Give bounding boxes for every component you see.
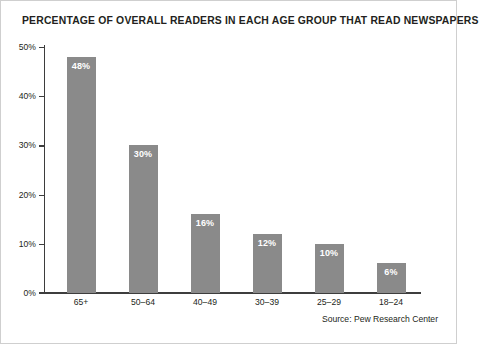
bar-value-label: 30% [129, 149, 158, 159]
x-axis-category-labels: 65+50–6440–4930–3925–2918–24 [45, 297, 417, 313]
x-axis-category-label: 30–39 [237, 297, 297, 307]
x-axis-category-label: 50–64 [113, 297, 173, 307]
x-axis-category-label: 40–49 [175, 297, 235, 307]
y-axis-tick-label: 10% [6, 239, 36, 249]
y-axis-tick-mark [39, 47, 45, 48]
y-axis-tick-mark [39, 96, 45, 97]
y-axis-tick-mark [39, 195, 45, 196]
y-axis-tick-label: 30% [6, 140, 36, 150]
bar: 12% [253, 234, 282, 293]
y-axis-tick-mark [39, 293, 45, 294]
bar-value-label: 10% [315, 248, 344, 258]
bar-value-label: 6% [377, 267, 406, 277]
y-axis-tick-label: 50% [6, 42, 36, 52]
source-attribution: Source: Pew Research Center [322, 314, 438, 324]
y-axis-tick-label: 40% [6, 91, 36, 101]
page-title: PERCENTAGE OF OVERALL READERS IN EACH AG… [22, 15, 447, 26]
y-axis-tick-labels: 0%10%20%30%40%50% [1, 1, 36, 344]
bar-value-label: 48% [67, 61, 96, 71]
y-axis-tick-mark [39, 145, 45, 146]
y-axis-tick-mark [39, 244, 45, 245]
bar: 16% [191, 214, 220, 293]
bar: 48% [67, 57, 96, 293]
bar: 6% [377, 263, 406, 293]
bar: 30% [129, 145, 158, 293]
bar: 10% [315, 244, 344, 293]
x-axis-category-label: 18–24 [361, 297, 421, 307]
bar-value-label: 12% [253, 238, 282, 248]
y-axis-tick-label: 20% [6, 190, 36, 200]
x-axis-category-label: 25–29 [299, 297, 359, 307]
bar-series: 48%30%16%12%10%6% [45, 47, 417, 293]
bar-value-label: 16% [191, 218, 220, 228]
x-axis-category-label: 65+ [51, 297, 111, 307]
y-axis-tick-label: 0% [6, 288, 36, 298]
